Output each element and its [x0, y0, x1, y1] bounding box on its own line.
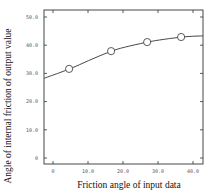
data-point-marker: [178, 33, 185, 40]
y-tick-label: 30.0: [26, 70, 38, 76]
x-tick-label: 20.0: [117, 168, 129, 174]
plot-border: [44, 10, 203, 164]
chart-canvas: 010.020.030.040.050.0010.020.030.040.0 F…: [0, 0, 213, 196]
y-tick-label: 10.0: [26, 127, 38, 133]
y-axis-title: Angle of internal friction of output val…: [3, 28, 13, 183]
x-tick-label: 10.0: [82, 168, 94, 174]
y-tick-label: 40.0: [26, 42, 38, 48]
data-point-marker: [108, 48, 115, 55]
data-point-marker: [144, 38, 151, 45]
y-tick-label: 0: [35, 155, 38, 161]
axis-ticks: 010.020.030.040.050.0010.020.030.040.0: [26, 10, 203, 174]
data-point-marker: [66, 65, 73, 72]
y-tick-label: 20.0: [26, 98, 38, 104]
plot-frame: [44, 10, 203, 164]
x-tick-label: 0: [51, 168, 54, 174]
x-axis-title: Friction angle of input data: [77, 180, 181, 190]
chart: 010.020.030.040.050.0010.020.030.040.0 F…: [0, 0, 213, 196]
y-tick-label: 50.0: [26, 14, 38, 20]
x-tick-label: 30.0: [152, 168, 164, 174]
x-tick-label: 40.0: [187, 168, 199, 174]
